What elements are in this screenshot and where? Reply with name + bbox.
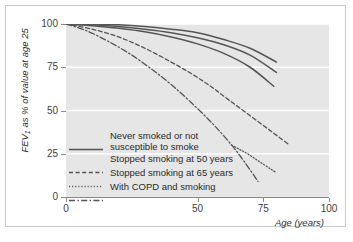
y-tick-mark bbox=[61, 111, 66, 112]
legend-item: With COPD and smoking bbox=[69, 183, 259, 195]
legend-key-solid bbox=[69, 137, 103, 140]
legend-label: Stopped smoking at 50 years bbox=[110, 154, 233, 165]
x-axis-label: Age (years) bbox=[6, 217, 324, 228]
series-line bbox=[66, 24, 276, 62]
legend-item: Stopped smoking at 65 years bbox=[69, 169, 259, 181]
y-tick-label: 0 bbox=[34, 191, 58, 202]
figure-canvas: 025507510005075100 FEV1 as % of value at… bbox=[0, 0, 353, 242]
series-line bbox=[66, 24, 290, 145]
x-tick-label: 75 bbox=[248, 203, 278, 214]
legend-label: Stopped smoking at 65 years bbox=[110, 168, 233, 179]
x-tick-mark bbox=[329, 198, 330, 202]
figure-border: 025507510005075100 FEV1 as % of value at… bbox=[5, 5, 346, 227]
legend-key-dotted bbox=[69, 174, 103, 177]
legend-item: Never smoked or not susceptible to smoke bbox=[69, 132, 259, 153]
y-axis-label-subscript: 1 bbox=[24, 130, 31, 134]
legend-label: Never smoked or not susceptible to smoke bbox=[110, 131, 199, 152]
x-tick-label: 50 bbox=[183, 203, 213, 214]
y-tick-mark bbox=[61, 154, 66, 155]
x-tick-mark bbox=[263, 198, 264, 202]
legend-label: With COPD and smoking bbox=[110, 182, 216, 193]
legend-key-dashed bbox=[69, 160, 103, 163]
y-axis-label-rest: as % of value at age 25 bbox=[19, 28, 30, 127]
x-tick-label: 0 bbox=[51, 203, 81, 214]
y-tick-label: 100 bbox=[34, 18, 58, 29]
y-tick-label: 25 bbox=[34, 148, 58, 159]
y-tick-label: 75 bbox=[34, 61, 58, 72]
y-tick-mark bbox=[61, 67, 66, 68]
y-tick-mark bbox=[61, 24, 66, 25]
legend-key-dash-dot bbox=[69, 188, 103, 191]
series-line bbox=[66, 24, 276, 72]
legend-item: Stopped smoking at 50 years bbox=[69, 155, 259, 167]
x-tick-mark bbox=[198, 198, 199, 202]
x-tick-label: 100 bbox=[314, 203, 344, 214]
y-axis-label-symbol: FEV bbox=[19, 134, 30, 152]
y-tick-label: 50 bbox=[34, 105, 58, 116]
chart-legend: Never smoked or not susceptible to smoke… bbox=[69, 132, 259, 197]
series-line bbox=[66, 24, 274, 86]
x-tick-mark bbox=[66, 198, 67, 202]
y-axis-label: FEV1 as % of value at age 25 bbox=[19, 25, 32, 155]
